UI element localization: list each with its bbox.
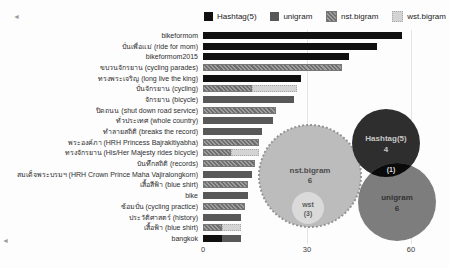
- venn-value-unigram: 6: [395, 204, 400, 213]
- legend-swatch-icon: [204, 12, 213, 21]
- venn-label-unigram: unigram: [381, 193, 413, 202]
- venn-diagram: nst.bigram 6 wst (3) Hashtag(5) 4 (1) un…: [0, 0, 449, 268]
- venn-label-nst-bigram: nst.bigram: [290, 166, 331, 175]
- venn-circle-wst: [292, 192, 324, 224]
- legend-item-unigram: unigram: [270, 12, 312, 21]
- legend-label: nst.bigram: [341, 12, 378, 21]
- venn-value-wst: (3): [304, 210, 313, 218]
- legend-label: unigram: [283, 12, 312, 21]
- legend-swatch-icon: [326, 11, 337, 22]
- legend-label: Hashtag(5): [217, 12, 257, 21]
- venn-value-hashtag: 4: [384, 145, 389, 154]
- venn-label-wst: wst: [301, 201, 314, 208]
- venn-value-nst-bigram: 6: [308, 176, 313, 185]
- legend-label: wst.bigram: [407, 12, 446, 21]
- legend-item-wst: wst.bigram: [392, 11, 446, 22]
- legend-swatch-icon: [270, 12, 279, 21]
- chart-legend: Hashtag(5)unigramnst.bigramwst.bigram: [204, 11, 446, 22]
- legend-swatch-icon: [392, 11, 403, 22]
- legend-item-hashtag: Hashtag(5): [204, 12, 257, 21]
- venn-label-intersection: (1): [387, 166, 396, 174]
- legend-item-nst: nst.bigram: [326, 11, 378, 22]
- venn-label-hashtag: Hashtag(5): [365, 134, 407, 143]
